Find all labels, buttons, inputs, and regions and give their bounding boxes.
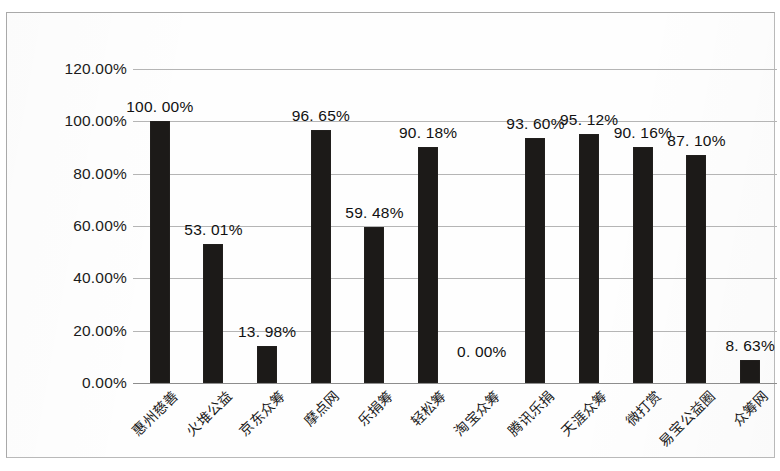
x-axis-tick-label: 乐捐筹: [352, 385, 397, 430]
bar-slot: [723, 69, 777, 383]
bar[interactable]: [418, 147, 438, 383]
bar-value-label: 87. 10%: [667, 132, 725, 150]
x-axis-tick-label: 微打赏: [620, 385, 665, 430]
gridline: [133, 383, 777, 384]
x-axis-tick-label: 火堆公益: [180, 385, 235, 440]
bar-value-label: 59. 48%: [345, 204, 403, 222]
bar-value-label: 95. 12%: [560, 111, 618, 129]
bar-value-label: 13. 98%: [238, 323, 296, 341]
bar-slot: [670, 69, 724, 383]
x-axis-tick-label: 腾讯乐捐: [502, 385, 557, 440]
bar-slot: [616, 69, 670, 383]
x-axis-tick-label: 易宝公益圈: [653, 385, 718, 450]
chart-frame: 0.00%20.00%40.00%60.00%80.00%100.00%120.…: [6, 12, 775, 458]
bar-value-label: 90. 18%: [399, 124, 457, 142]
bar[interactable]: [633, 147, 653, 383]
x-axis-tick-label: 京东众筹: [234, 385, 289, 440]
y-axis-tick-label: 60.00%: [19, 217, 127, 235]
bar[interactable]: [686, 155, 706, 383]
bar[interactable]: [150, 121, 170, 383]
x-axis-tick-label: 惠州慈善: [127, 385, 182, 440]
bar-slot: [401, 69, 455, 383]
x-axis-tick-label: 轻松筹: [405, 385, 450, 430]
bar[interactable]: [311, 130, 331, 383]
x-axis-tick-label: 天涯众筹: [556, 385, 611, 440]
bar-value-label: 90. 16%: [614, 124, 672, 142]
x-axis-category-labels: 惠州慈善火堆公益京东众筹摩点网乐捐筹轻松筹淘宝众筹腾讯乐捐天涯众筹微打赏易宝公益…: [133, 385, 777, 471]
bar-value-label: 8. 63%: [725, 337, 774, 355]
y-axis-tick-label: 100.00%: [19, 112, 127, 130]
x-axis-tick-label: 淘宝众筹: [449, 385, 504, 440]
bar-value-label: 53. 01%: [184, 221, 242, 239]
bar[interactable]: [257, 346, 277, 383]
bar[interactable]: [579, 134, 599, 383]
y-axis-tick-label: 20.00%: [19, 322, 127, 340]
y-axis-tick-label: 0.00%: [19, 374, 127, 392]
bar[interactable]: [203, 244, 223, 383]
bar[interactable]: [364, 227, 384, 383]
x-axis-tick-label: 众筹网: [727, 385, 772, 430]
bar-slot: [348, 69, 402, 383]
x-axis-tick-label: 摩点网: [298, 385, 343, 430]
bar[interactable]: [525, 138, 545, 383]
bar[interactable]: [740, 360, 760, 383]
y-axis-tick-label: 40.00%: [19, 269, 127, 287]
bar-value-label: 93. 60%: [506, 115, 564, 133]
y-axis-tick-label: 80.00%: [19, 165, 127, 183]
plot-area: 100. 00%53. 01%13. 98%96. 65%59. 48%90. …: [133, 69, 777, 383]
bar-slot: [455, 69, 509, 383]
bar-value-label: 96. 65%: [292, 107, 350, 125]
bar-value-label: 0. 00%: [457, 343, 506, 361]
y-axis-tick-labels: 0.00%20.00%40.00%60.00%80.00%100.00%120.…: [15, 69, 127, 383]
bar-value-label: 100. 00%: [126, 98, 193, 116]
y-axis-tick-label: 120.00%: [19, 60, 127, 78]
